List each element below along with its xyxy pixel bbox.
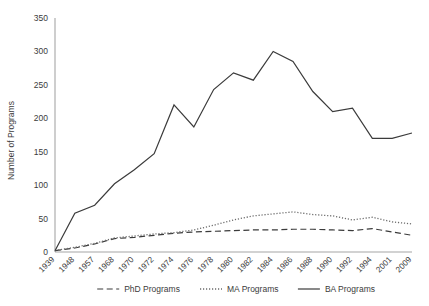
y-tick-200: 200 bbox=[34, 113, 48, 123]
x-tick-1939: 1939 bbox=[37, 255, 57, 275]
legend: PhD ProgramsMA ProgramsBA Programs bbox=[97, 284, 375, 294]
y-tick-50: 50 bbox=[39, 214, 49, 224]
line-chart: Number of Programs 050100150200250300350… bbox=[0, 0, 429, 306]
x-tick-1970: 1970 bbox=[117, 255, 137, 275]
x-tick-1957: 1957 bbox=[77, 255, 97, 275]
x-tick-1972: 1972 bbox=[136, 255, 156, 275]
legend-item-ba-programs[interactable]: BA Programs bbox=[298, 284, 375, 294]
x-tick-1948: 1948 bbox=[57, 255, 77, 275]
y-axis-title-label: Number of Programs bbox=[6, 101, 16, 180]
x-tick-1988: 1988 bbox=[295, 255, 315, 275]
series-line-ba-programs bbox=[55, 51, 412, 250]
legend-label: PhD Programs bbox=[124, 284, 180, 294]
x-tick-1982: 1982 bbox=[236, 255, 256, 275]
y-tick-150: 150 bbox=[34, 147, 48, 157]
y-axis-title: Number of Programs bbox=[6, 101, 16, 180]
x-axis-tick-labels: 1939194819571968197019721974197619781980… bbox=[37, 255, 414, 275]
legend-item-phd-programs[interactable]: PhD Programs bbox=[97, 284, 180, 294]
y-tick-250: 250 bbox=[34, 80, 48, 90]
series-lines bbox=[55, 51, 412, 250]
x-tick-2001: 2001 bbox=[374, 255, 394, 275]
y-tick-300: 300 bbox=[34, 46, 48, 56]
x-tick-1990: 1990 bbox=[315, 255, 335, 275]
x-tick-1980: 1980 bbox=[216, 255, 236, 275]
y-axis-tick-labels: 050100150200250300350 bbox=[34, 13, 48, 257]
x-tick-1984: 1984 bbox=[255, 255, 275, 275]
legend-label: BA Programs bbox=[325, 284, 375, 294]
chart-container: Number of Programs 050100150200250300350… bbox=[0, 0, 429, 306]
axis-lines bbox=[55, 18, 412, 252]
x-tick-2009: 2009 bbox=[394, 255, 414, 275]
y-tick-350: 350 bbox=[34, 13, 48, 23]
y-tick-0: 0 bbox=[43, 247, 48, 257]
x-tick-1994: 1994 bbox=[355, 255, 375, 275]
legend-item-ma-programs[interactable]: MA Programs bbox=[200, 284, 279, 294]
x-tick-1978: 1978 bbox=[196, 255, 216, 275]
x-tick-1992: 1992 bbox=[335, 255, 355, 275]
x-tick-1974: 1974 bbox=[156, 255, 176, 275]
x-tick-1976: 1976 bbox=[176, 255, 196, 275]
series-line-ma-programs bbox=[55, 212, 412, 251]
y-tick-100: 100 bbox=[34, 180, 48, 190]
x-tick-1986: 1986 bbox=[275, 255, 295, 275]
legend-label: MA Programs bbox=[227, 284, 279, 294]
x-tick-1968: 1968 bbox=[97, 255, 117, 275]
